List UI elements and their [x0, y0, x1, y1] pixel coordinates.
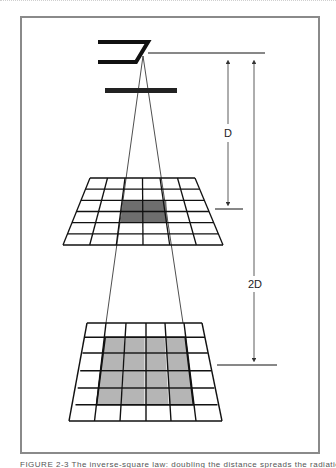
figure-caption: FIGURE 2-3 The inverse-square law: doubl…	[20, 459, 336, 468]
inverse-square-diagram	[0, 0, 336, 468]
source-icon	[98, 42, 148, 62]
collimator-bar	[105, 88, 177, 93]
distance-2d-label: 2D	[248, 277, 262, 291]
distance-d-label: D	[224, 126, 232, 140]
upper-grid	[63, 178, 223, 245]
lower-grid	[69, 323, 222, 421]
